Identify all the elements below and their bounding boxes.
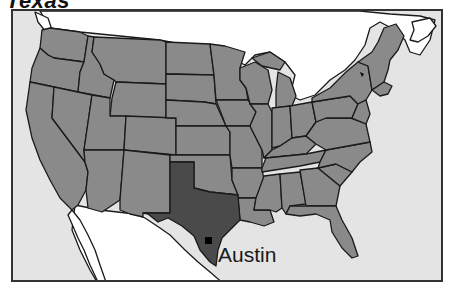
city-label-austin: Austin <box>218 243 276 267</box>
austin-marker-icon <box>205 237 212 244</box>
